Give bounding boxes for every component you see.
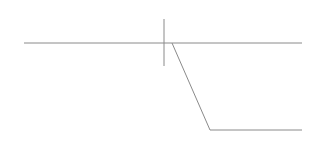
line-diagram xyxy=(0,0,322,141)
step-down-path xyxy=(172,43,302,130)
diagram-canvas xyxy=(0,0,322,141)
